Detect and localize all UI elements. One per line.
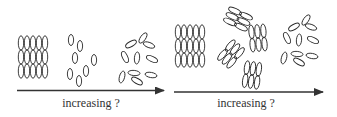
right-cluster-left — [216, 39, 246, 70]
left-isotropic — [118, 32, 159, 87]
right-arrow-label: increasing ? — [217, 96, 275, 111]
right-isotropic — [280, 14, 320, 68]
right-cluster-right — [248, 24, 267, 52]
left-arrow-label: increasing ? — [62, 96, 120, 111]
phase-diagram — [0, 0, 337, 117]
right-cluster-bottom — [242, 60, 263, 89]
left-scattered-aligned — [67, 35, 96, 87]
right-crystal-lattice — [175, 25, 204, 67]
left-crystal-lattice — [18, 36, 47, 78]
